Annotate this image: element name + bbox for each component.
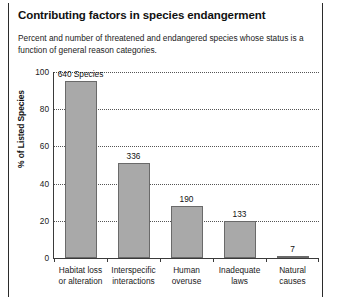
bar-group: 640 SpeciesHabitat lossor alteration — [54, 72, 107, 258]
right-border-rule — [322, 3, 323, 297]
x-axis-category-label: Humanoveruse — [159, 265, 215, 287]
x-axis-tick — [54, 258, 55, 262]
y-axis-tick-label: 0 — [44, 253, 49, 263]
y-axis-tick-label: 20 — [40, 216, 49, 226]
y-axis-tick-label: 100 — [35, 67, 49, 77]
x-axis-tick — [160, 258, 161, 262]
y-axis-tick-label: 60 — [40, 141, 49, 151]
left-border-rule — [8, 3, 9, 297]
bar-group: 7Naturalcauses — [266, 72, 319, 258]
bar-group: 133Inadequatelaws — [213, 72, 266, 258]
bar-group: 190Humanoveruse — [160, 72, 213, 258]
x-axis-category-label: Habitat lossor alteration — [53, 265, 109, 287]
y-axis-tick-label: 80 — [40, 104, 49, 114]
bar[interactable] — [118, 163, 150, 258]
plot-area: 020406080100 640 SpeciesHabitat lossor a… — [53, 72, 319, 259]
bar-value-label: 336 — [127, 151, 141, 161]
bar[interactable] — [65, 81, 97, 258]
chart-figure: Contributing factors in species endanger… — [0, 0, 346, 300]
y-axis-tick-label: 40 — [40, 179, 49, 189]
x-axis-tick — [266, 258, 267, 262]
bar-value-label: 133 — [233, 209, 247, 219]
x-axis-category-label: Interspecificinteractions — [106, 265, 162, 287]
bar[interactable] — [277, 256, 309, 258]
bar-value-label: 190 — [180, 194, 194, 204]
x-axis-tick — [107, 258, 108, 262]
x-axis-category-label: Inadequatelaws — [212, 265, 268, 287]
x-axis-category-label: Naturalcauses — [265, 265, 321, 287]
bar[interactable] — [224, 221, 256, 258]
chart-content: Contributing factors in species endanger… — [18, 0, 318, 300]
x-axis-tick — [318, 258, 319, 262]
bar-value-label: 640 Species — [58, 69, 104, 79]
bar-series: 640 SpeciesHabitat lossor alteration336I… — [54, 72, 319, 258]
chart-subtitle: Percent and number of threatened and end… — [18, 33, 308, 56]
bar-group: 336Interspecificinteractions — [107, 72, 160, 258]
x-axis-tick — [213, 258, 214, 262]
bar[interactable] — [171, 206, 203, 258]
bar-value-label: 7 — [290, 244, 295, 254]
chart-title: Contributing factors in species endanger… — [18, 9, 265, 21]
y-axis-title: % of Listed Species — [16, 90, 26, 168]
